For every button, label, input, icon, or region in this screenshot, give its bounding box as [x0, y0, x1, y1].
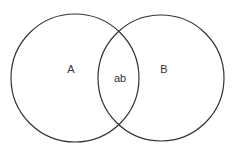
set-a-label: A: [67, 64, 74, 75]
set-b-label: B: [160, 64, 167, 75]
intersection-label: ab: [114, 73, 126, 84]
